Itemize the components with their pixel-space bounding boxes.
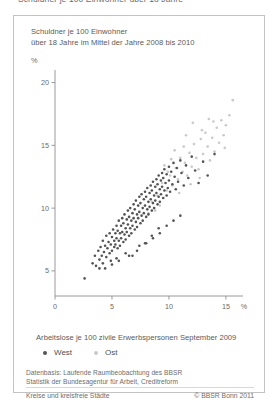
data-point — [124, 227, 127, 230]
data-point — [106, 247, 109, 250]
data-point — [115, 257, 118, 260]
data-point — [136, 226, 139, 229]
data-point — [115, 237, 118, 240]
data-point — [135, 221, 138, 224]
data-point — [168, 179, 171, 182]
data-point — [156, 203, 159, 206]
data-point — [124, 252, 127, 255]
data-point — [213, 150, 216, 153]
data-point — [206, 145, 209, 148]
data-point — [132, 203, 135, 206]
data-point — [206, 174, 209, 177]
data-point — [204, 131, 207, 134]
source-line-1: Datenbasis: Laufende Raumbeobachtung des… — [26, 368, 256, 377]
data-point — [119, 244, 122, 247]
x-axis-unit-label: % — [241, 302, 248, 311]
data-point — [169, 174, 172, 177]
data-point — [120, 224, 123, 227]
data-point — [220, 119, 223, 122]
data-point — [83, 277, 86, 280]
data-point — [162, 197, 165, 200]
data-point — [145, 196, 148, 199]
x-tick-label: 15 — [222, 302, 230, 311]
y-tick-label: 20 — [41, 78, 49, 87]
data-point — [104, 244, 107, 247]
data-point — [144, 242, 147, 245]
data-point — [143, 198, 146, 201]
data-point — [228, 114, 231, 117]
data-point — [127, 223, 130, 226]
data-point — [98, 267, 101, 270]
legend-swatch-west-icon — [43, 351, 47, 355]
data-point — [231, 99, 234, 102]
data-point — [197, 168, 200, 171]
data-point — [165, 224, 168, 227]
data-point — [163, 189, 166, 192]
data-point — [165, 194, 168, 197]
data-point — [208, 118, 211, 121]
data-point — [136, 213, 139, 216]
data-point — [133, 208, 136, 211]
data-point — [95, 265, 98, 268]
data-point — [123, 233, 126, 236]
data-point — [107, 241, 110, 244]
data-point — [108, 232, 111, 235]
chart-title-line-2: über 18 Jahre im Mittel der Jahre 2008 b… — [31, 38, 253, 49]
data-point — [202, 153, 205, 156]
data-point — [149, 184, 152, 187]
data-point — [133, 228, 136, 231]
data-point — [225, 124, 228, 127]
data-point — [120, 237, 123, 240]
data-point — [186, 174, 189, 177]
data-point — [131, 212, 134, 215]
data-point — [125, 231, 128, 234]
data-point — [211, 137, 214, 140]
data-point — [114, 232, 117, 235]
data-point — [144, 204, 147, 207]
data-point — [152, 237, 155, 240]
data-point — [149, 198, 152, 201]
data-point — [161, 172, 164, 175]
data-point — [146, 187, 149, 190]
data-point — [102, 262, 105, 265]
data-point — [125, 218, 128, 221]
data-point — [159, 201, 162, 204]
data-point — [130, 232, 133, 235]
data-point — [171, 183, 174, 186]
data-point — [202, 160, 205, 163]
data-point — [179, 157, 182, 160]
data-point — [180, 172, 183, 175]
data-point — [157, 174, 160, 177]
data-point — [157, 196, 160, 199]
data-point — [121, 231, 124, 234]
data-point — [139, 222, 142, 225]
data-point — [169, 190, 172, 193]
chart-title: Schuldner je 100 Einwohner über 18 Jahre… — [31, 27, 253, 48]
source-block: Datenbasis: Laufende Raumbeobachtung des… — [26, 368, 256, 386]
data-point — [138, 211, 141, 214]
legend-item-west: West — [43, 348, 72, 357]
data-point — [156, 183, 159, 186]
chart-title-line-1: Schuldner je 100 Einwohner — [31, 27, 253, 38]
data-point — [168, 165, 171, 168]
legend-label-west: West — [54, 348, 72, 357]
data-point — [182, 184, 185, 187]
scatter-series-west — [83, 153, 216, 280]
data-point — [174, 188, 177, 191]
data-point — [97, 250, 100, 253]
data-point — [170, 158, 173, 161]
data-point — [111, 250, 114, 253]
data-point — [105, 256, 108, 259]
data-point — [138, 244, 141, 247]
data-point — [179, 159, 182, 162]
footer-scope-label: Kreise und kreisfreie Städte — [26, 392, 110, 399]
data-point — [99, 246, 102, 249]
data-point — [185, 164, 188, 167]
y-tick-label: 15 — [41, 141, 49, 150]
data-point — [138, 196, 141, 199]
data-point — [222, 134, 225, 137]
data-point — [167, 170, 170, 173]
x-tick-label: 5 — [110, 302, 114, 311]
data-point — [213, 153, 216, 156]
data-point — [173, 149, 176, 152]
